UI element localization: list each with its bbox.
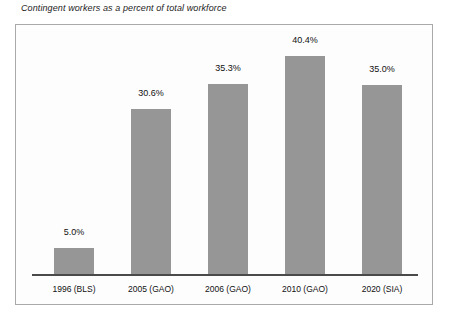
bar-3[interactable] xyxy=(285,56,325,275)
bar-2[interactable] xyxy=(208,84,248,275)
bar-0[interactable] xyxy=(54,248,94,275)
chart-title: Contingent workers as a percent of total… xyxy=(21,3,227,13)
bar-value-label-4: 35.0% xyxy=(346,64,418,74)
bar-4[interactable] xyxy=(362,85,402,275)
chart-figure: Contingent workers as a percent of total… xyxy=(0,0,449,320)
bar-1[interactable] xyxy=(131,109,171,275)
bar-value-label-3: 40.4% xyxy=(269,35,341,45)
x-axis-line xyxy=(32,274,418,276)
bar-value-label-2: 35.3% xyxy=(192,63,264,73)
bar-value-label-0: 5.0% xyxy=(38,227,110,237)
x-tick-label-3: 2010 (GAO) xyxy=(262,284,348,294)
x-tick-label-2: 2006 (GAO) xyxy=(185,284,271,294)
plot-area: 5.0% 30.6% 35.3% 40.4% 35.0% xyxy=(16,25,434,306)
x-tick-label-1: 2005 (GAO) xyxy=(108,284,194,294)
plot-frame: 5.0% 30.6% 35.3% 40.4% 35.0% xyxy=(15,24,433,305)
bar-value-label-1: 30.6% xyxy=(115,88,187,98)
x-tick-label-4: 2020 (SIA) xyxy=(339,284,425,294)
x-tick-label-0: 1996 (BLS) xyxy=(31,284,117,294)
